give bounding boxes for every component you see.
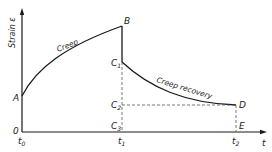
x-axis-arrow-icon [260,130,267,134]
t2-label: t2 [232,136,240,147]
y-axis-arrow-icon [20,8,24,15]
point-b-label: B [124,16,130,26]
point-a-label: A [12,93,19,103]
t1-label: t1 [118,136,125,147]
point-e-label: E [239,121,245,131]
point-c2-label: C2 [111,100,121,111]
point-c3-label: C3 [111,121,121,132]
point-d-label: D [239,100,246,110]
creep-curve [22,26,122,96]
point-c1-label: C1 [111,58,121,69]
origin-label: 0 [13,126,19,136]
x-axis-label: t [262,138,266,148]
y-axis-label: Strain ε [8,17,17,48]
creep-recovery-diagram: Strain ε t Creep Creep recovery A B C1 C… [0,0,272,152]
t0-label: t0 [18,136,26,147]
